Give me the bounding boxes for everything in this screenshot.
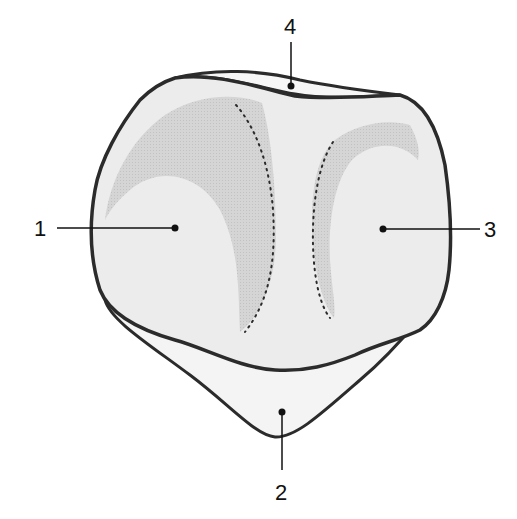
tooth-diagram: 1 2 3 4 bbox=[0, 0, 517, 519]
label-1: 1 bbox=[34, 216, 46, 241]
label-3: 3 bbox=[484, 217, 496, 242]
label-2: 2 bbox=[275, 480, 287, 505]
label-4: 4 bbox=[284, 14, 296, 39]
